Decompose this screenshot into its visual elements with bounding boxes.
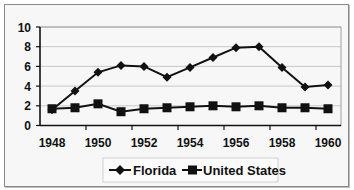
square-marker-icon	[140, 104, 149, 113]
x-tick-label: 1956	[223, 136, 250, 150]
diamond-marker-icon	[232, 43, 241, 52]
series-united-states	[48, 99, 333, 116]
x-tick-label: 1952	[131, 136, 158, 150]
x-tick-label: 1960	[315, 136, 342, 150]
diamond-marker-icon	[324, 81, 333, 90]
square-marker-icon	[163, 103, 172, 112]
square-marker-icon	[188, 166, 197, 175]
square-marker-icon	[255, 101, 264, 110]
x-tick-label: 1958	[269, 136, 296, 150]
square-marker-icon	[232, 102, 241, 111]
square-marker-icon	[117, 107, 126, 116]
diamond-marker-icon	[209, 53, 218, 62]
square-marker-icon	[301, 103, 310, 112]
square-marker-icon	[209, 101, 218, 110]
square-marker-icon	[48, 104, 57, 113]
legend-label-united-states: United States	[203, 163, 286, 178]
x-tick-label: 1954	[177, 136, 204, 150]
data-series	[48, 42, 333, 116]
legend: Florida United States	[103, 158, 286, 182]
square-marker-icon	[186, 102, 195, 111]
y-tick-label: 0	[24, 119, 31, 133]
legend-label-florida: Florida	[133, 163, 177, 178]
diamond-marker-icon	[163, 73, 172, 82]
square-marker-icon	[324, 104, 333, 113]
x-tick-label: 1950	[85, 136, 112, 150]
diamond-marker-icon	[140, 62, 149, 71]
y-tick-label: 2	[24, 99, 31, 113]
line-chart: 0246810 1948195019521954195619581960 Flo…	[0, 0, 354, 190]
diamond-marker-icon	[186, 63, 195, 72]
y-tick-label: 10	[18, 21, 32, 35]
square-marker-icon	[94, 99, 103, 108]
diamond-marker-icon	[117, 61, 126, 70]
x-axis-ticks: 1948195019521954195619581960	[39, 126, 342, 151]
y-tick-label: 6	[24, 60, 31, 74]
square-marker-icon	[71, 103, 80, 112]
x-tick-label: 1948	[39, 136, 66, 150]
y-axis-ticks: 0246810	[18, 21, 40, 134]
series-line-florida	[52, 47, 328, 110]
y-tick-label: 8	[24, 40, 31, 54]
square-marker-icon	[278, 103, 287, 112]
y-tick-label: 4	[24, 80, 31, 94]
